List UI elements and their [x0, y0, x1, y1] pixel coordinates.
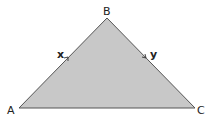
triangle-abc [19, 18, 195, 108]
triangle-diagram: B A C x y [0, 0, 207, 118]
vertex-label-a: A [7, 104, 15, 117]
vertex-label-c: C [197, 104, 205, 117]
vector-label-y: y [150, 48, 157, 61]
vector-label-x: x [57, 48, 64, 61]
vertex-label-b: B [103, 5, 111, 18]
